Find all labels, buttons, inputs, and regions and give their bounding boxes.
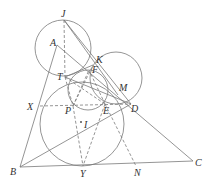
diagram-canvas: J A K F T M D X P E I B Y N C	[0, 0, 215, 192]
label-j: J	[61, 8, 66, 19]
label-a: A	[49, 37, 57, 48]
label-c: C	[195, 157, 202, 168]
line-tk	[65, 65, 93, 77]
circle-a	[35, 20, 91, 76]
incircle	[40, 82, 124, 166]
label-p: P	[64, 105, 71, 116]
label-n: N	[133, 167, 142, 178]
label-y: Y	[80, 168, 87, 179]
geometry-diagram: J A K F T M D X P E I B Y N C	[0, 0, 215, 192]
label-x: X	[26, 101, 34, 112]
line-ey	[83, 104, 105, 166]
line-jt	[64, 20, 65, 77]
label-e: E	[102, 105, 109, 116]
label-i: I	[83, 119, 88, 130]
label-b: B	[10, 166, 16, 177]
line-pe-k	[73, 65, 93, 106]
label-d: D	[130, 103, 139, 114]
point-i	[80, 121, 82, 123]
line-tp	[65, 77, 73, 106]
label-f: F	[91, 64, 99, 75]
label-m: M	[118, 82, 128, 93]
label-t: T	[57, 71, 64, 82]
line-xd	[40, 104, 131, 106]
